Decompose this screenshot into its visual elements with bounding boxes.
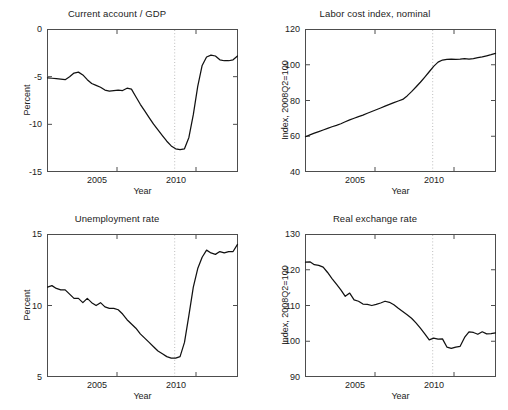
panel-labor-cost: Labor cost index, nominal Index, 2008Q2=… [254, 0, 508, 205]
axis-frame [48, 30, 238, 172]
data-series-line [48, 55, 238, 150]
panel-title: Unemployment rate [0, 213, 244, 224]
y-tick-label: -15 [16, 167, 42, 177]
y-tick-label: 100 [272, 60, 300, 70]
plot-area [47, 29, 238, 172]
x-axis-label: Year [47, 186, 238, 196]
y-tick-label: -5 [16, 72, 42, 82]
y-tick-label: 80 [272, 96, 300, 106]
y-tick-label: 5 [16, 372, 42, 382]
x-tick-label: 2010 [156, 380, 196, 390]
axis-frame [306, 235, 496, 377]
data-series-line [48, 244, 238, 358]
y-tick-label: 120 [272, 265, 300, 275]
x-axis-label: Year [305, 391, 496, 401]
data-series-line [306, 53, 496, 136]
y-tick-label: 130 [272, 229, 300, 239]
data-series-line [306, 262, 496, 349]
panel-current-account: Current account / GDP Percent Year 0 -5 … [0, 0, 254, 205]
y-tick-label: 90 [272, 372, 300, 382]
x-tick-label: 2005 [335, 380, 375, 390]
plot-area [305, 29, 496, 172]
x-tick-label: 2005 [77, 175, 117, 185]
plot-area [47, 234, 238, 377]
y-tick-label: -10 [16, 119, 42, 129]
y-tick-label: 120 [272, 24, 300, 34]
x-axis-label: Year [47, 391, 238, 401]
y-tick-label: 15 [16, 229, 42, 239]
y-tick-label: 110 [272, 301, 300, 311]
panel-unemployment: Unemployment rate Percent Year 15 10 5 2… [0, 205, 254, 410]
x-tick-label: 2005 [335, 175, 375, 185]
x-axis-label: Year [305, 186, 496, 196]
x-tick-label: 2005 [77, 380, 117, 390]
x-tick-label: 2010 [414, 175, 454, 185]
panel-title: Labor cost index, nominal [248, 8, 502, 19]
plot-area [305, 234, 496, 377]
panel-real-exchange-rate: Real exchange rate Index, 2008Q2=100 Yea… [254, 205, 508, 410]
y-tick-label: 100 [272, 336, 300, 346]
panel-title: Real exchange rate [248, 213, 502, 224]
y-tick-label: 40 [272, 167, 300, 177]
axis-frame [48, 235, 238, 377]
y-tick-label: 0 [16, 24, 42, 34]
x-tick-label: 2010 [156, 175, 196, 185]
y-tick-label: 60 [272, 131, 300, 141]
y-tick-label: 10 [16, 301, 42, 311]
x-tick-label: 2010 [414, 380, 454, 390]
figure-canvas: Current account / GDP Percent Year 0 -5 … [0, 0, 508, 410]
panel-title: Current account / GDP [0, 8, 244, 19]
